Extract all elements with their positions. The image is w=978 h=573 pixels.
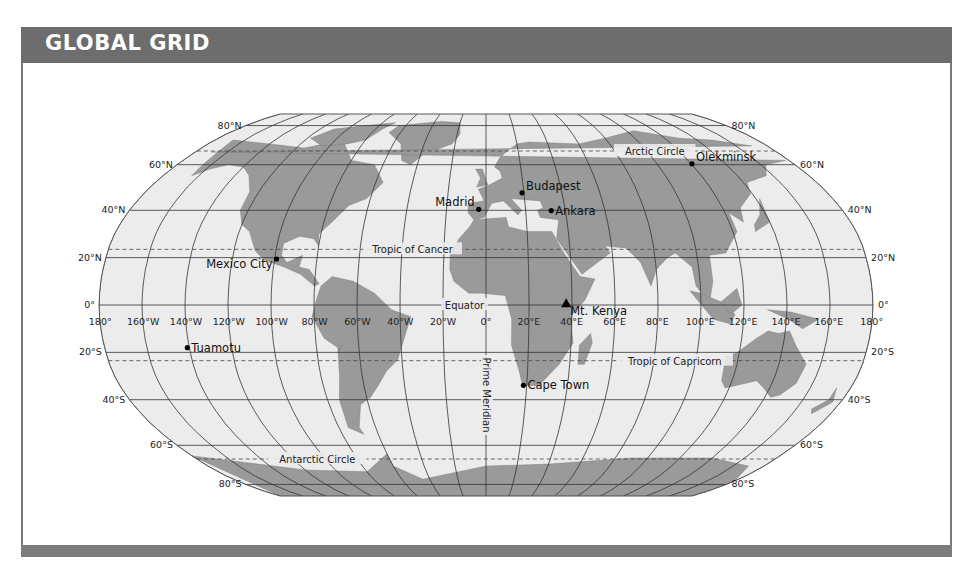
place-label: Madrid xyxy=(435,195,475,209)
prime-meridian-label-group: Prime Meridian xyxy=(481,355,493,435)
city-marker-icon xyxy=(521,383,526,388)
world-map: 80°N80°N60°N60°N40°N40°N20°N20°N0°0°20°S… xyxy=(0,0,978,573)
special-line-label: Equator xyxy=(445,300,485,311)
special-line-label: Antarctic Circle xyxy=(279,454,355,465)
longitude-label: 160°W xyxy=(127,316,160,327)
latitude-label: 20°N xyxy=(871,252,895,263)
longitude-label: 180° xyxy=(860,316,883,327)
place-label: Budapest xyxy=(526,179,581,193)
place-label: Tuamotu xyxy=(190,341,241,355)
longitude-label: 120°E xyxy=(729,316,758,327)
longitude-label: 100°W xyxy=(256,316,289,327)
longitude-label: 140°E xyxy=(772,316,801,327)
special-line-label: Tropic of Cancer xyxy=(371,244,453,255)
city-marker-icon xyxy=(274,256,279,261)
latitude-label: 80°N xyxy=(218,120,242,131)
longitude-label: 0° xyxy=(481,316,492,327)
latitude-label: 40°N xyxy=(848,204,872,215)
longitude-label: 60°W xyxy=(344,316,371,327)
place-label: Mexico City xyxy=(206,257,273,271)
latitude-label: 60°S xyxy=(800,439,823,450)
latitude-label: 60°S xyxy=(150,439,173,450)
place-label: Mt. Kenya xyxy=(570,304,627,318)
city-marker-icon xyxy=(519,190,524,195)
special-line-label: Tropic of Capricorn xyxy=(627,356,722,367)
place-label: Olekminsk xyxy=(696,150,757,164)
latitude-label: 20°N xyxy=(78,252,102,263)
city-marker-icon xyxy=(185,345,190,350)
longitude-label: 100°E xyxy=(686,316,715,327)
latitude-label: 40°S xyxy=(848,394,871,405)
longitude-label: 120°W xyxy=(213,316,246,327)
latitude-label: 20°S xyxy=(79,346,102,357)
city-marker-icon xyxy=(689,161,694,166)
city-marker-icon xyxy=(549,208,554,213)
latitude-label: 80°S xyxy=(731,478,754,489)
prime-meridian-label: Prime Meridian xyxy=(481,357,492,432)
latitude-label: 80°S xyxy=(219,478,242,489)
latitude-label: 60°N xyxy=(149,159,173,170)
latitude-label: 80°N xyxy=(731,120,755,131)
latitude-label: 0° xyxy=(878,299,889,310)
longitude-label: 20°W xyxy=(430,316,457,327)
latitude-label: 0° xyxy=(84,299,95,310)
place-label: Cape Town xyxy=(527,378,589,392)
longitude-label: 20°E xyxy=(517,316,540,327)
latitude-label: 60°N xyxy=(800,159,824,170)
city-marker-icon xyxy=(476,207,481,212)
longitude-label: 80°W xyxy=(301,316,328,327)
longitude-label: 140°W xyxy=(170,316,203,327)
longitude-label: 40°W xyxy=(387,316,414,327)
latitude-label: 40°S xyxy=(102,394,125,405)
longitude-label: 180° xyxy=(89,316,112,327)
longitude-label: 80°E xyxy=(646,316,669,327)
latitude-label: 20°S xyxy=(871,346,894,357)
latitude-label: 40°N xyxy=(101,204,125,215)
longitude-label: 160°E xyxy=(814,316,843,327)
special-line-label: Arctic Circle xyxy=(625,146,685,157)
place-label: Ankara xyxy=(555,204,595,218)
